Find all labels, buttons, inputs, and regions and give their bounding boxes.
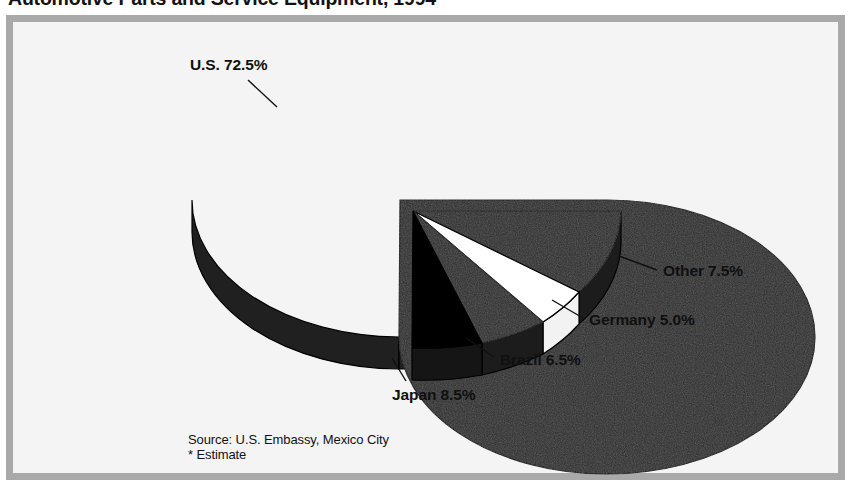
leader-line-us — [248, 80, 277, 107]
pie-label-brazil: Brazil 6.5% — [500, 351, 581, 369]
pie-slice-us-depth — [192, 200, 399, 369]
pie-label-us: U.S. 72.5% — [190, 56, 267, 74]
chart-page: Automotive Parts and Service Equipment, … — [0, 0, 857, 492]
source-line: Source: U.S. Embassy, Mexico City — [188, 432, 389, 447]
pie-label-other: Other 7.5% — [663, 262, 743, 280]
pie-chart-graphic — [0, 0, 857, 492]
pie-label-japan: Japan 8.5% — [392, 386, 475, 404]
source-note: Source: U.S. Embassy, Mexico City * Esti… — [188, 432, 389, 462]
pie-label-germany: Germany 5.0% — [589, 311, 695, 329]
estimate-footnote: * Estimate — [188, 447, 389, 462]
